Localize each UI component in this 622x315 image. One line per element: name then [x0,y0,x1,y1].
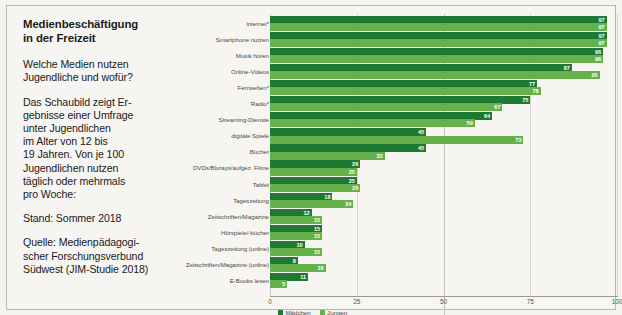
bar-value-label: 78 [533,87,539,95]
chart-row: Tablet2526 [175,177,621,193]
chart-row: Streaming-Dienste6459 [175,112,621,128]
chart-row: E-Books lesen115 [175,273,621,289]
info-panel: Medienbeschäftigungin der Freizeit Welch… [23,18,173,287]
plot-area: internet*9797Smartphone nutzen9797Musik … [175,14,621,296]
x-tick-label: 100 [612,298,622,305]
bar-value-label: 25 [349,168,355,176]
bar-value-label: 11 [300,273,306,281]
chart-row: Tageszeitung1824 [175,193,621,209]
category-label: Fernsehen* [238,84,270,91]
chart-row: Fernsehen*7778 [175,80,621,96]
bar-value-label: 67 [494,103,500,111]
legend-item[interactable]: Jungen [320,309,348,315]
category-label: Bücher [250,148,269,155]
bar-value-label: 64 [484,112,490,120]
category-label: Smartphone nutzen [216,36,269,43]
category-label: Radio* [251,100,269,107]
bar-jungen: 97 [270,23,607,31]
bar-jungen: 15 [270,216,322,224]
x-tick-label: 25 [353,298,360,305]
chart-row: Musik hören9696 [175,48,621,64]
category-label: internet* [246,20,269,27]
category-label: Streaming-Dienste [219,116,269,123]
category-label: digitale Spiele [231,132,269,139]
chart-row: Online-Videos8795 [175,64,621,80]
legend-label: Jungen [327,309,347,315]
bar-value-label: 24 [345,200,351,208]
bar-value-label: 16 [317,264,323,272]
category-label: Musik hören [236,52,269,59]
bar-value-label: 15 [314,232,320,240]
bar-jungen: 24 [270,200,353,208]
bar-jungen: 25 [270,168,357,176]
chart-row: Radio*7567 [175,96,621,112]
x-axis: 0255075100 [175,298,621,310]
category-label: Tablet [253,181,269,188]
chart-row: Tageszeitung (online)1015 [175,241,621,257]
bar-jungen: 73 [270,136,523,144]
category-label: Online-Videos [231,68,269,75]
bar-value-label: 45 [418,144,424,152]
category-label: Tageszeitung (online) [211,245,269,252]
chart-row: Hörspiele/-bücher1515 [175,225,621,241]
chart-row: digitale Spiele4573 [175,128,621,144]
bar-jungen: 5 [270,280,287,288]
category-label: Zeitschriften/Magazine [208,213,269,220]
bar-value-label: 5 [282,280,285,288]
legend-item[interactable]: Mädchen [278,309,311,315]
bar-value-label: 97 [598,23,604,31]
bar-jungen: 15 [270,248,322,256]
bar-jungen: 78 [270,87,541,95]
bar-value-label: 97 [598,39,604,47]
bar-value-label: 73 [515,136,521,144]
bar-value-label: 26 [352,184,358,192]
chart-row: Zeitschriften/Magazine (online)816 [175,257,621,273]
description-text: Das Schaubild zeigt Er-gebnisse einer Um… [23,96,173,202]
chart-row: DVDs/Blurays/aufgez. Filme2625 [175,160,621,176]
category-label: E-Books lesen [230,277,269,284]
chart-row: Smartphone nutzen9797 [175,32,621,48]
category-label: Hörspiele/-bücher [221,229,269,236]
source-text: Quelle: Medienpädagogi-scher Forschungsv… [23,236,173,276]
page-title: Medienbeschäftigungin der Freizeit [23,18,173,45]
bar-chart: internet*9797Smartphone nutzen9797Musik … [175,12,621,312]
category-label: Tageszeitung [233,197,269,204]
subtitle-question: Welche Medien nutzenJugendliche und wofü… [23,58,173,84]
bar-jungen: 97 [270,39,607,47]
axis-baseline [270,296,618,297]
category-label: DVDs/Blurays/aufgez. Filme [193,164,269,171]
bar-value-label: 33 [376,152,382,160]
bar-jungen: 59 [270,119,475,127]
bar-jungen: 67 [270,103,502,111]
infographic-page: Medienbeschäftigungin der Freizeit Welch… [0,0,622,315]
x-tick-label: 75 [527,298,534,305]
bar-jungen: 33 [270,152,385,160]
legend-label: Mädchen [286,309,311,315]
bar-jungen: 16 [270,264,326,272]
bar-value-label: 96 [595,55,601,63]
category-label: Zeitschriften/Magazine (online) [186,261,269,268]
bar-value-label: 59 [467,119,473,127]
chart-row: Zeitschriften/Magazine1215 [175,209,621,225]
bar-jungen: 95 [270,71,600,79]
legend-swatch-icon [278,310,283,315]
bar-value-label: 15 [314,216,320,224]
bar-jungen: 96 [270,55,603,63]
x-tick-label: 50 [440,298,447,305]
chart-legend: MädchenJungen [278,309,347,315]
x-tick-label: 0 [268,298,272,305]
status-text: Stand: Sommer 2018 [23,212,173,225]
bar-jungen: 26 [270,184,360,192]
bar-jungen: 15 [270,232,322,240]
chart-frame: Medienbeschäftigungin der Freizeit Welch… [6,5,616,310]
chart-row: internet*9797 [175,16,621,32]
bar-value-label: 75 [522,96,528,104]
bar-value-label: 15 [314,248,320,256]
bar-value-label: 95 [592,71,598,79]
legend-swatch-icon [320,310,325,315]
chart-row: Bücher4533 [175,144,621,160]
